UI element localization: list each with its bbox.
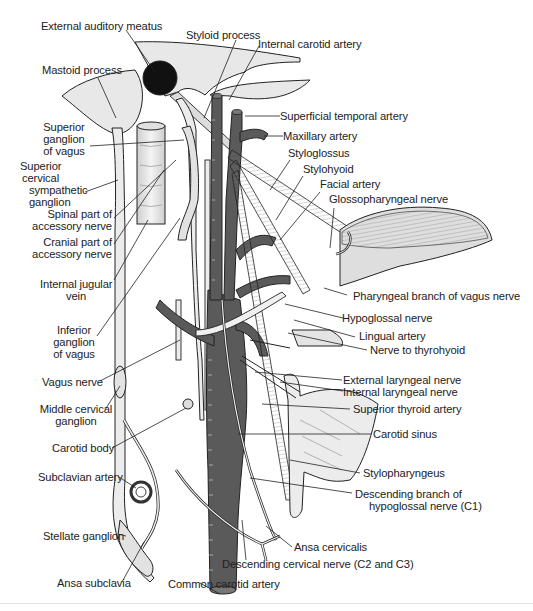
internal-jugular-vein-shape (137, 122, 165, 224)
label-ansa-cervicalis: Ansa cervicalis (294, 541, 367, 553)
label-superior-ganglion-of-vagus: Superior ganglion of vagus (38, 121, 90, 157)
label-external-auditory-meatus: External auditory meatus (41, 20, 162, 32)
label-carotid-body: Carotid body (52, 442, 114, 454)
anatomy-figure: External auditory meatus Styloid process… (0, 0, 533, 611)
label-descending-branch-of-hypoglossal-nerve: Descending branch of hypoglossal nerve (… (355, 488, 482, 512)
label-internal-carotid-artery: Internal carotid artery (258, 38, 361, 50)
tongue (336, 207, 492, 286)
bottom-divider (0, 603, 533, 604)
label-mastoid-process: Mastoid process (42, 64, 122, 76)
label-internal-jugular-vein: Internal jugular vein (40, 278, 112, 302)
label-stylopharyngeus: Stylopharyngeus (363, 467, 445, 479)
label-hypoglossal-nerve: Hypoglossal nerve (342, 312, 432, 324)
label-vagus-nerve: Vagus nerve (42, 376, 103, 388)
label-styloglossus: Styloglossus (288, 147, 350, 159)
label-nerve-to-thyrohyoid: Nerve to thyrohyoid (370, 344, 465, 356)
label-cranial-part-of-accessory-nerve: Cranial part of accessory nerve (30, 236, 112, 260)
label-subclavian-artery: Subclavian artery (38, 471, 123, 483)
label-ansa-subclavia: Ansa subclavia (57, 577, 131, 589)
label-styloid-process: Styloid process (186, 29, 260, 41)
label-glossopharyngeal-nerve: Glossopharyngeal nerve (329, 193, 448, 205)
label-pharyngeal-branch-of-vagus-nerve: Pharyngeal branch of vagus nerve (353, 290, 520, 302)
label-stylohyoid: Stylohyoid (303, 163, 354, 175)
label-superior-thyroid-artery: Superior thyroid artery (353, 403, 461, 415)
label-internal-laryngeal-nerve: Internal laryngeal nerve (343, 386, 458, 398)
label-superior-cervical-sympathetic-ganglion: Superior cervical sympathetic ganglion (20, 160, 88, 208)
label-spinal-part-of-accessory-nerve: Spinal part of accessory nerve (30, 208, 112, 232)
label-carotid-sinus: Carotid sinus (373, 428, 437, 440)
label-descending-cervical-nerve: Descending cervical nerve (C2 and C3) (222, 558, 414, 570)
neck-anatomy-illustration (0, 0, 533, 611)
label-facial-artery: Facial artery (320, 178, 380, 190)
vagus-nerve-shape (176, 98, 210, 420)
label-inferior-ganglion-of-vagus: Inferior ganglion of vagus (48, 324, 100, 360)
label-external-laryngeal-nerve: External laryngeal nerve (343, 374, 461, 386)
label-middle-cervical-ganglion: Middle cervical ganglion (38, 403, 114, 427)
label-maxillary-artery: Maxillary artery (283, 130, 357, 142)
label-superficial-temporal-artery: Superficial temporal artery (280, 110, 408, 122)
label-stellate-ganglion: Stellate ganglion (43, 530, 124, 542)
label-common-carotid-artery: Common carotid artery (168, 578, 280, 590)
label-lingual-artery: Lingual artery (359, 330, 425, 342)
